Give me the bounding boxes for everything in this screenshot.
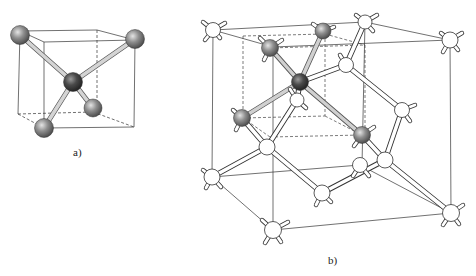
atom-gray (354, 127, 371, 144)
atom-white (339, 58, 354, 73)
crystal-structure-diagram (0, 0, 476, 276)
atom-gray (84, 99, 102, 117)
atom-white (259, 139, 275, 155)
atom-white (265, 222, 282, 239)
atom-white (206, 23, 221, 38)
atom-dark-center (64, 73, 83, 92)
atom-white (377, 152, 393, 168)
atom-white (443, 205, 460, 222)
atom-white (358, 15, 372, 29)
panel-b-bond-stubs (203, 15, 463, 243)
panel-a-label: a) (73, 146, 82, 158)
atom-gray (126, 30, 145, 49)
atom-gray (11, 26, 30, 45)
atom-white (353, 158, 368, 173)
atom-white (395, 103, 410, 118)
atom-white (290, 93, 304, 107)
panel-b-white-atoms (204, 15, 460, 239)
atom-white (204, 169, 220, 185)
panel-b-label: b) (328, 254, 337, 266)
atom-white (442, 32, 458, 48)
atom-gray (234, 110, 251, 127)
panel-b-lattice (203, 15, 463, 243)
atom-gray (315, 23, 331, 39)
atom-gray (35, 119, 54, 138)
atom-gray (262, 40, 279, 57)
atom-dark-center (292, 74, 309, 91)
panel-a-tetrahedron (11, 26, 145, 138)
atom-white (314, 185, 330, 201)
